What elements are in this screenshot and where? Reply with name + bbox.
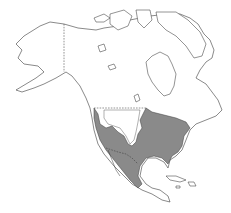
caribbean-island-cuba xyxy=(166,176,186,182)
north-america-map xyxy=(0,0,231,213)
range-map xyxy=(0,0,231,213)
caribbean-island xyxy=(176,186,180,188)
arctic-island xyxy=(94,14,110,22)
caribbean-island xyxy=(188,182,196,186)
